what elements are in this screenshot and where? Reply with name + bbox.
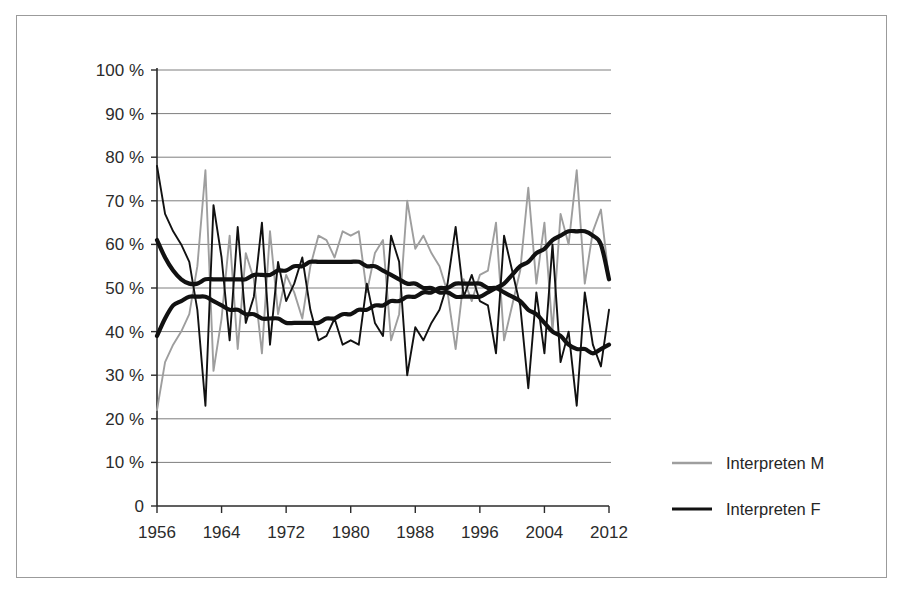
y-tick-label: 30 %	[105, 366, 144, 385]
y-tick-label: 0	[135, 497, 144, 516]
x-tick-label: 1964	[203, 523, 241, 542]
y-tick-label: 40 %	[105, 323, 144, 342]
x-tick-label: 1980	[332, 523, 370, 542]
legend-label-interpreten-m: Interpreten M	[726, 454, 824, 472]
legend-label-interpreten-f: Interpreten F	[726, 500, 820, 518]
chart-legend: Interpreten M Interpreten F	[672, 454, 824, 518]
gridlines	[157, 70, 611, 462]
y-tick-label: 90 %	[105, 105, 144, 124]
y-tick-label: 80 %	[105, 148, 144, 167]
chart-canvas: 010 %20 %30 %40 %50 %60 %70 %80 %90 %100…	[0, 0, 903, 601]
x-tick-label: 1996	[461, 523, 499, 542]
y-tick-label: 10 %	[105, 453, 144, 472]
y-tick-label: 100 %	[96, 61, 144, 80]
y-tick-label: 60 %	[105, 235, 144, 254]
y-tick-label: 70 %	[105, 192, 144, 211]
x-tick-label: 1988	[396, 523, 434, 542]
x-tick-labels: 19561964197219801988199620042012	[138, 523, 628, 542]
y-tick-label: 50 %	[105, 279, 144, 298]
series-line-interpreten-f	[157, 166, 609, 406]
x-tick-label: 2012	[590, 523, 628, 542]
y-tickmarks	[151, 70, 157, 506]
figure-root: 010 %20 %30 %40 %50 %60 %70 %80 %90 %100…	[0, 0, 903, 601]
x-tick-label: 1972	[267, 523, 305, 542]
y-tick-label: 20 %	[105, 410, 144, 429]
x-tick-label: 1956	[138, 523, 176, 542]
y-tick-labels: 010 %20 %30 %40 %50 %60 %70 %80 %90 %100…	[96, 61, 144, 516]
x-tick-label: 2004	[526, 523, 564, 542]
x-tickmarks	[157, 506, 609, 513]
